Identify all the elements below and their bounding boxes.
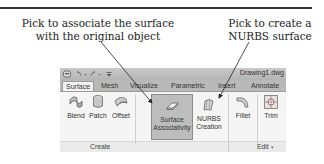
patch-button[interactable]: Patch bbox=[88, 94, 108, 120]
dropdown-icon: ▾ bbox=[271, 144, 274, 150]
trim-label: Trim bbox=[264, 112, 277, 119]
patch-icon bbox=[90, 94, 106, 110]
callout-left-line2: with the original object bbox=[12, 30, 184, 43]
callout-left-line1: Pick to associate the surface bbox=[12, 17, 184, 30]
surface-associativity-label-2: Associativity bbox=[152, 124, 192, 132]
nurbs-creation-label-1: NURBS bbox=[195, 115, 223, 123]
edit-panel-label[interactable]: Edit ▾ bbox=[257, 143, 274, 150]
surface-associativity-button[interactable]: Surface Associativity bbox=[151, 94, 193, 140]
panel-separator bbox=[135, 94, 136, 144]
surface-associativity-icon bbox=[164, 98, 180, 114]
quick-access-toolbar: Drawing1.dwg bbox=[60, 68, 286, 80]
blend-label: Blend bbox=[67, 112, 84, 119]
document-title: Drawing1.dwg bbox=[240, 69, 284, 76]
callout-right-line2: NURBS surface bbox=[218, 30, 322, 43]
tab-insert[interactable]: Insert bbox=[215, 81, 239, 91]
undo-icon[interactable] bbox=[75, 70, 83, 78]
top-rule bbox=[0, 7, 312, 9]
tab-surface[interactable]: Surface bbox=[62, 81, 94, 91]
tab-visualize[interactable]: Visualize bbox=[127, 81, 161, 91]
fillet-icon bbox=[235, 94, 251, 110]
ribbon-body: Blend Patch Offset Surface Associativity… bbox=[60, 91, 286, 152]
nurbs-creation-button[interactable]: NURBS Creation bbox=[195, 94, 223, 131]
nurbs-creation-icon bbox=[201, 97, 217, 113]
callout-surface-associativity: Pick to associate the surface with the o… bbox=[12, 17, 184, 43]
create-panel-label[interactable]: Create bbox=[90, 143, 110, 150]
panel-divider bbox=[228, 94, 229, 152]
fillet-label: Fillet bbox=[236, 112, 250, 119]
blend-icon bbox=[68, 94, 84, 110]
panel-separator bbox=[257, 94, 258, 144]
tab-annotate[interactable]: Annotate bbox=[248, 81, 282, 91]
offset-label: Offset bbox=[112, 112, 130, 119]
callout-nurbs-creation: Pick to create a NURBS surface bbox=[218, 17, 322, 43]
surface-associativity-label-1: Surface bbox=[152, 116, 192, 124]
fillet-button[interactable]: Fillet bbox=[232, 94, 254, 120]
redo-dropdown-icon[interactable] bbox=[97, 70, 102, 78]
edit-panel-label-text: Edit bbox=[257, 143, 269, 150]
callout-right-line1: Pick to create a bbox=[218, 17, 322, 30]
trim-button[interactable]: Trim bbox=[260, 94, 282, 120]
tab-parametric[interactable]: Parametric bbox=[168, 81, 208, 91]
autocad-ribbon-screenshot: Drawing1.dwg Surface Mesh Visualize Para… bbox=[60, 68, 286, 152]
tab-mesh[interactable]: Mesh bbox=[98, 81, 121, 91]
ribbon-tabs: Surface Mesh Visualize Parametric Insert… bbox=[60, 80, 286, 91]
save-icon[interactable] bbox=[63, 70, 71, 78]
trim-icon bbox=[263, 94, 279, 110]
nurbs-creation-label-2: Creation bbox=[195, 123, 223, 131]
redo-icon[interactable] bbox=[89, 70, 97, 78]
patch-label: Patch bbox=[89, 112, 106, 119]
offset-icon bbox=[113, 94, 129, 110]
customize-icon[interactable] bbox=[105, 70, 113, 78]
blend-button[interactable]: Blend bbox=[66, 94, 86, 120]
offset-button[interactable]: Offset bbox=[110, 94, 132, 120]
undo-dropdown-icon[interactable] bbox=[83, 70, 88, 78]
